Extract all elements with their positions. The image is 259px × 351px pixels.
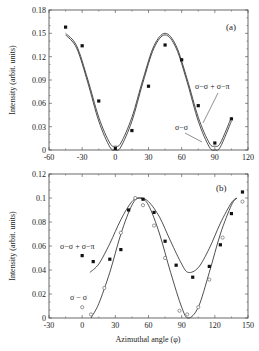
y-tick-label: 0.12	[32, 170, 46, 179]
x-tick-label: -30	[77, 153, 88, 162]
fit-curve	[66, 35, 232, 150]
y-tick-label: 0.03	[32, 123, 46, 132]
chart-figure: -60-30030609012000.030.060.090.120.150.1…	[0, 0, 259, 351]
y-tick-label: 0.08	[32, 218, 46, 227]
x-tick-label: 150	[242, 321, 254, 330]
y-tick-label: 0.06	[32, 242, 46, 251]
x-tick-label: 90	[178, 321, 186, 330]
data-point-open	[152, 224, 155, 227]
data-point-open	[141, 204, 144, 207]
data-point-filled	[230, 117, 233, 120]
x-tick-label: 30	[111, 321, 119, 330]
y-tick-label: 0.06	[32, 99, 46, 108]
data-point-filled	[97, 99, 100, 102]
b-curve-label-sum: σ−σ + σ−π	[60, 242, 95, 251]
data-point-filled	[130, 129, 133, 132]
x-tick-label: 90	[211, 153, 219, 162]
panel-b-label: (b)	[216, 183, 227, 193]
panel-a-ylabel: Intensity (arbit. units)	[8, 45, 17, 115]
x-tick-label: 120	[242, 153, 254, 162]
data-point-filled	[127, 208, 130, 211]
panel-a: -60-30030609012000.030.060.090.120.150.1…	[8, 6, 254, 162]
a-leader-ss	[185, 133, 202, 142]
data-point-filled	[197, 104, 200, 107]
panel-a-curves	[66, 33, 232, 150]
data-point-open	[197, 306, 200, 309]
panel-a-frame	[49, 10, 248, 150]
data-point-open	[208, 278, 211, 281]
b-curve-label-ss: σ − σ	[70, 293, 88, 302]
x-tick-label: 60	[145, 321, 153, 330]
x-tick-label: 30	[145, 153, 153, 162]
data-point-filled	[163, 240, 166, 243]
data-point-filled	[152, 211, 155, 214]
data-point-filled	[108, 258, 111, 261]
data-point-filled	[163, 43, 166, 46]
y-tick-label: 0.09	[32, 76, 46, 85]
y-tick-label: 0.1	[36, 194, 46, 203]
panel-b-ylabel: Intensity (arbit. units)	[8, 211, 17, 281]
x-tick-label: 0	[113, 153, 117, 162]
data-point-filled	[81, 254, 84, 257]
panel-a-label: (a)	[226, 22, 236, 32]
data-point-open	[186, 313, 189, 316]
a-curve-label-ss: σ−σ	[175, 123, 189, 132]
y-tick-label: 0.04	[32, 266, 46, 275]
data-point-open	[241, 200, 244, 203]
y-tick-label: 0.02	[32, 290, 46, 299]
a-curve-label-sum: σ−σ + σ−π	[195, 82, 230, 91]
data-point-open	[81, 306, 84, 309]
fit-curve	[90, 198, 237, 273]
data-point-filled	[219, 243, 222, 246]
data-point-open	[119, 231, 122, 234]
data-point-filled	[147, 85, 150, 88]
y-tick-label: 0	[42, 314, 46, 323]
y-tick-label: 0.18	[32, 6, 46, 15]
x-tick-label: 60	[178, 153, 186, 162]
y-tick-label: 0.12	[32, 53, 46, 62]
data-point-filled	[175, 264, 178, 267]
data-point-filled	[180, 58, 183, 61]
y-tick-label: 0	[42, 146, 46, 155]
panel-b: -30030609012015000.020.040.060.080.10.12…	[8, 170, 254, 344]
data-point-filled	[241, 190, 244, 193]
data-point-filled	[92, 260, 95, 263]
y-tick-label: 0.15	[32, 29, 46, 38]
data-point-open	[103, 286, 106, 289]
data-point-filled	[114, 147, 117, 150]
data-point-filled	[141, 198, 144, 201]
data-point-filled	[213, 141, 216, 144]
data-point-filled	[191, 276, 194, 279]
data-point-filled	[208, 265, 211, 268]
data-point-filled	[81, 44, 84, 47]
data-point-open	[134, 196, 137, 199]
data-point-open	[89, 313, 92, 316]
x-tick-label: 120	[209, 321, 221, 330]
x-axis-title: Azimuthal angle (φ)	[115, 335, 180, 344]
data-point-filled	[230, 212, 233, 215]
data-point-open	[178, 309, 181, 312]
x-tick-label: 0	[80, 321, 84, 330]
data-point-filled	[64, 26, 67, 29]
data-point-open	[163, 256, 166, 259]
a-leader-sum	[203, 93, 218, 123]
data-point-filled	[119, 248, 122, 251]
data-point-open	[221, 236, 224, 239]
